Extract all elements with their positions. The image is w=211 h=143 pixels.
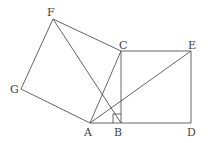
label-F: F	[47, 6, 55, 19]
segment-GA	[21, 89, 90, 123]
label-G: G	[10, 83, 19, 96]
label-C: C	[119, 39, 127, 52]
geometry-diagram: F C E G A B D	[0, 0, 211, 143]
segment-FG	[21, 19, 53, 89]
label-D: D	[187, 126, 196, 139]
label-A: A	[83, 126, 93, 139]
label-B: B	[114, 126, 122, 139]
label-E: E	[188, 39, 196, 52]
